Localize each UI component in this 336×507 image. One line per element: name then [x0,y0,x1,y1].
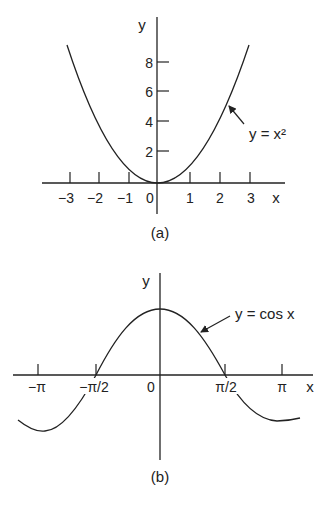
y-ticks [157,62,169,151]
panel-a-parabola: −3 −2 −1 0 1 2 3 x 2 4 6 8 y y = x² (a) [42,16,286,241]
x-tick-label: π [277,379,287,395]
annotation-arrow [229,106,244,124]
parabola-curve [67,45,249,183]
x-tick-label: −π [28,379,46,395]
panel-label-b: (b) [151,468,169,485]
x-axis-label: x [272,189,280,206]
x-tick-label: −1 [117,190,133,206]
x-tick-label: 3 [247,190,255,206]
y-axis-label: y [138,16,146,33]
y-axis-label: y [142,272,150,289]
panel-label-a: (a) [151,224,169,241]
figure: −3 −2 −1 0 1 2 3 x 2 4 6 8 y y = x² (a) [0,0,336,507]
panel-b-cosine: −π −π/2 0 π/2 π x y −π/2 π/2 y = cos x (… [13,272,314,485]
annotation-arrow [201,316,230,332]
curve-label: y = cos x [235,305,295,322]
x-tick-label: −2 [87,190,103,206]
y-tick-label: 4 [145,114,153,130]
x-ticks [70,172,250,183]
x-axis-label: x [306,378,314,395]
y-tick-labels: 2 4 6 8 [145,55,153,160]
y-tick-label: 8 [145,55,153,71]
x-tick-label: 0 [147,379,155,395]
x-tick-label: 2 [216,190,224,206]
x-tick-label: 0 [146,190,154,206]
x-tick-label: −3 [58,190,74,206]
y-tick-label: 6 [145,84,153,100]
x-tick-label: π/2 [215,379,237,395]
curve-label: y = x² [249,125,286,142]
y-tick-label: 2 [145,144,153,160]
x-tick-label: 1 [186,190,194,206]
x-tick-labels: −π −π/2 0 π/2 π [28,379,287,395]
x-tick-label: −π/2 [79,379,109,395]
cosine-curve [18,309,300,431]
